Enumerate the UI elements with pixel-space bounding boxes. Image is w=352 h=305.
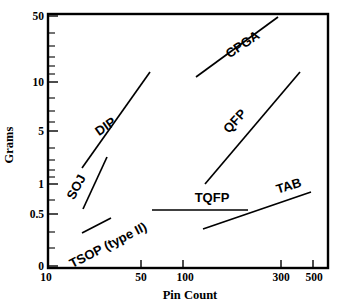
y-axis-title: Grams	[2, 126, 16, 163]
series-line-qfp	[205, 72, 300, 184]
series-label-cpga: CPGA	[223, 27, 263, 61]
series-line-soj	[83, 157, 107, 209]
series-line-tsop	[82, 218, 111, 233]
series-label-qfp: QFP	[220, 106, 249, 136]
y-tick-labels: 50 10 5 1 0.5 0	[30, 10, 45, 272]
y-tick-label-1: 1	[38, 178, 44, 190]
y-tick-label-10: 10	[33, 76, 45, 88]
plot-frame	[48, 14, 328, 268]
series-line-dip	[82, 72, 150, 168]
x-axis-title: Pin Count	[163, 288, 218, 302]
x-tick-labels: 10 50 100 300 500	[40, 271, 323, 283]
y-axis-ticks	[48, 16, 58, 266]
chart-canvas: 50 10 5 1 0.5 0 10 50 100 300 500 Pin Co…	[0, 0, 352, 305]
x-tick-label-300: 300	[272, 271, 290, 283]
series-label-dip: DIP	[92, 114, 119, 139]
y-tick-label-5: 5	[38, 125, 44, 137]
series-label-soj: SOJ	[63, 172, 88, 202]
x-tick-label-10: 10	[40, 271, 52, 283]
x-tick-label-500: 500	[305, 271, 323, 283]
series-label-tab: TAB	[274, 175, 303, 197]
y-tick-label-0point5: 0.5	[30, 208, 45, 220]
y-tick-label-50: 50	[33, 10, 45, 22]
series-label-tsop: TSOP (type II)	[67, 219, 150, 271]
x-tick-label-50: 50	[135, 271, 147, 283]
chart-figure: 50 10 5 1 0.5 0 10 50 100 300 500 Pin Co…	[0, 0, 352, 305]
series-label-tqfp: TQFP	[195, 190, 230, 205]
series-labels: DIP SOJ TSOP (type II) CPGA QFP TQFP TAB	[63, 27, 303, 271]
x-tick-label-100: 100	[176, 271, 194, 283]
